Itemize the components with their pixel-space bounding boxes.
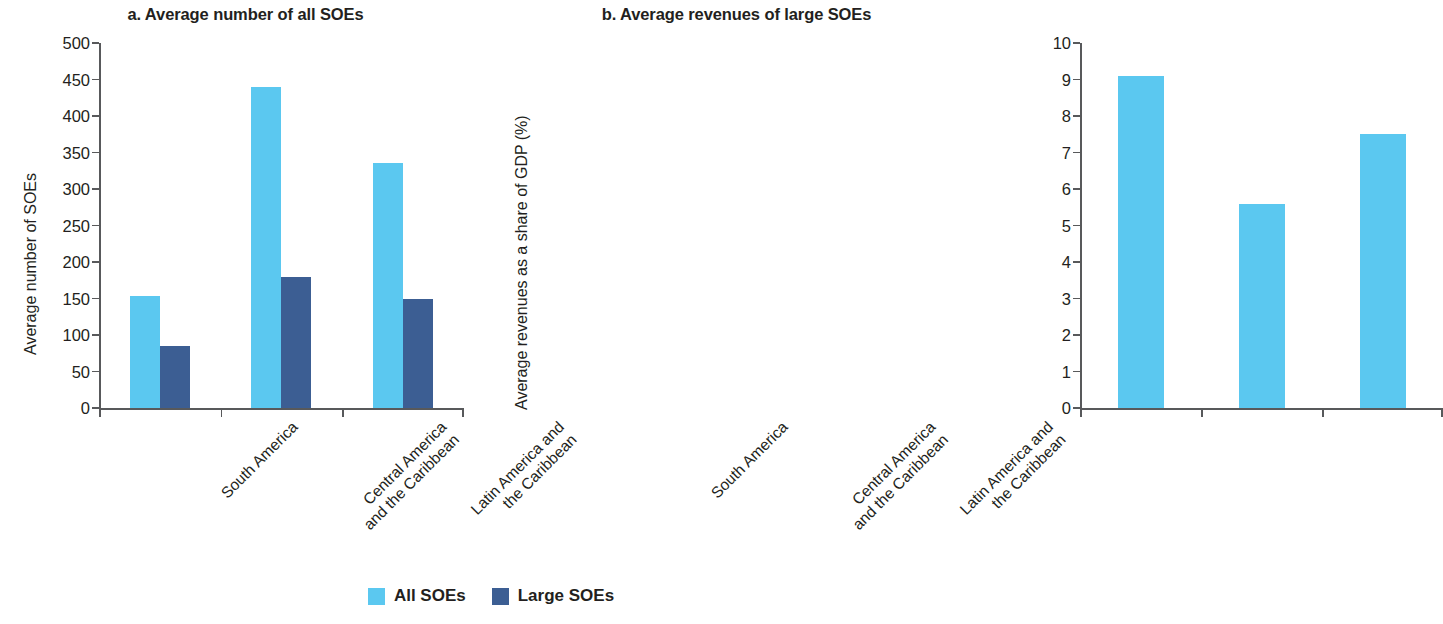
x-tick-mark <box>99 408 101 417</box>
legend-label: All SOEs <box>394 586 466 606</box>
x-category-label: South America <box>707 418 791 502</box>
y-tick-mark <box>1073 261 1080 263</box>
y-tick-label: 6 <box>1062 180 1071 199</box>
panel-a-x-axis-line <box>99 408 464 410</box>
y-tick-mark <box>92 334 99 336</box>
x-category-label-line: South America <box>707 418 791 502</box>
bar <box>403 299 433 409</box>
bar <box>160 346 190 408</box>
bar-group <box>99 43 221 408</box>
y-tick-mark <box>92 152 99 154</box>
y-tick-label: 150 <box>62 289 90 308</box>
x-category-label: Central Americaand the Caribbean <box>347 418 463 534</box>
y-tick-label: 200 <box>62 253 90 272</box>
y-tick-label: 10 <box>1053 34 1071 53</box>
y-tick-label: 3 <box>1062 289 1071 308</box>
y-tick-label: 300 <box>62 180 90 199</box>
panel-b-y-axis-label: Average revenues as a share of GDP (%) <box>513 115 531 410</box>
y-tick-mark <box>1073 371 1080 373</box>
y-tick-mark <box>1073 115 1080 117</box>
y-tick-label: 0 <box>1062 399 1071 418</box>
y-tick-label: 250 <box>62 216 90 235</box>
panel-b-bars <box>1080 43 1443 408</box>
y-tick-mark <box>92 261 99 263</box>
x-tick-mark <box>1201 408 1203 417</box>
y-tick-mark <box>1073 334 1080 336</box>
y-tick-label: 450 <box>62 70 90 89</box>
y-tick-mark <box>92 42 99 44</box>
x-tick-mark <box>221 408 223 417</box>
y-tick-mark <box>92 371 99 373</box>
bar <box>1118 76 1164 408</box>
bar-group <box>1080 43 1201 408</box>
y-tick-label: 400 <box>62 107 90 126</box>
y-tick-label: 2 <box>1062 326 1071 345</box>
legend-item: All SOEs <box>368 586 466 606</box>
bar <box>130 296 160 408</box>
y-tick-label: 4 <box>1062 253 1071 272</box>
y-tick-label: 0 <box>81 399 90 418</box>
legend-label: Large SOEs <box>518 586 614 606</box>
chart-panel-a: a. Average number of all SOEs Average nu… <box>0 0 491 570</box>
legend-item: Large SOEs <box>492 586 614 606</box>
y-tick-mark <box>92 407 99 409</box>
y-tick-label: 50 <box>72 362 90 381</box>
y-tick-mark <box>1073 188 1080 190</box>
y-tick-mark <box>92 225 99 227</box>
x-category-label: South America <box>217 418 301 502</box>
bar-group <box>1201 43 1322 408</box>
y-tick-label: 9 <box>1062 70 1071 89</box>
x-tick-mark <box>1322 408 1324 417</box>
panel-a-title: a. Average number of all SOEs <box>0 5 491 24</box>
y-tick-label: 1 <box>1062 362 1071 381</box>
y-tick-mark <box>92 79 99 81</box>
x-tick-mark <box>342 408 344 417</box>
legend-swatch-icon <box>368 588 385 605</box>
bar-group <box>221 43 343 408</box>
chart-legend: All SOEsLarge SOEs <box>0 586 982 606</box>
x-category-label: Central Americaand the Caribbean <box>836 418 952 534</box>
x-category-label-line: South America <box>217 418 301 502</box>
y-tick-mark <box>92 188 99 190</box>
y-tick-mark <box>92 115 99 117</box>
y-tick-mark <box>92 298 99 300</box>
y-tick-mark <box>1073 79 1080 81</box>
y-tick-label: 5 <box>1062 216 1071 235</box>
panel-a-y-axis-label: Average number of SOEs <box>22 173 40 355</box>
panel-a-plot-area: 500450400350300250200150100500 <box>99 43 464 408</box>
y-tick-mark <box>1073 42 1080 44</box>
panel-a-bars <box>99 43 464 408</box>
chart-panel-b: b. Average revenues of large SOEs Averag… <box>491 0 982 570</box>
legend-swatch-icon <box>492 588 509 605</box>
panel-b-title: b. Average revenues of large SOEs <box>491 5 982 24</box>
y-tick-mark <box>1073 225 1080 227</box>
panel-b-x-axis-line <box>1080 408 1443 410</box>
y-tick-label: 350 <box>62 143 90 162</box>
y-tick-label: 7 <box>1062 143 1071 162</box>
x-tick-mark <box>462 408 464 417</box>
panel-b-plot-area: 109876543210 <box>1080 43 1443 408</box>
y-tick-mark <box>1073 407 1080 409</box>
bar <box>281 277 311 408</box>
y-tick-label: 100 <box>62 326 90 345</box>
bar-group <box>342 43 464 408</box>
x-category-label: Latin America andthe Caribbean <box>956 418 1070 532</box>
bar-group <box>1322 43 1443 408</box>
bar <box>1360 134 1406 408</box>
bar <box>1239 204 1285 408</box>
y-tick-label: 8 <box>1062 107 1071 126</box>
y-tick-mark <box>1073 152 1080 154</box>
x-tick-mark <box>1080 408 1082 417</box>
bar <box>251 87 281 408</box>
y-tick-mark <box>1073 298 1080 300</box>
y-tick-label: 500 <box>62 34 90 53</box>
bar <box>373 163 403 408</box>
